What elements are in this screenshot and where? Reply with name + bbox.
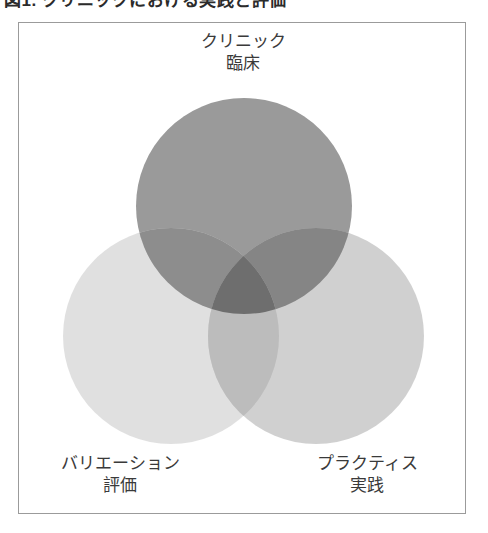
figure-caption-clip: 図1. クリニックにおける実践と評価 bbox=[0, 0, 488, 12]
figure-caption: 図1. クリニックにおける実践と評価 bbox=[4, 0, 287, 11]
venn-label-practice-line2: 実践 bbox=[267, 475, 467, 497]
figure-root: 図1. クリニックにおける実践と評価 bbox=[0, 0, 488, 533]
venn-label-variation-line1: バリエーション bbox=[61, 454, 180, 473]
venn-diagram bbox=[19, 23, 467, 515]
venn-label-practice: プラクティス 実践 bbox=[267, 453, 467, 497]
venn-label-practice-line1: プラクティス bbox=[317, 454, 418, 473]
venn-label-clinic-line1: クリニック bbox=[201, 32, 286, 51]
figure-frame: クリニック 臨床 バリエーション 評価 プラクティス 実践 bbox=[18, 22, 466, 514]
venn-label-variation-line2: 評価 bbox=[15, 475, 225, 497]
venn-label-clinic-line2: 臨床 bbox=[143, 53, 343, 75]
venn-label-variation: バリエーション 評価 bbox=[15, 453, 225, 497]
venn-label-clinic: クリニック 臨床 bbox=[143, 31, 343, 75]
